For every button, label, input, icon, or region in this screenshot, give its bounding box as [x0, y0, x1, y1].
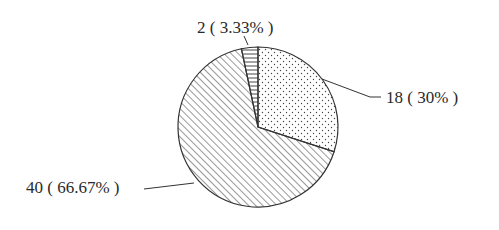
slice-label-medium: 18 ( 30% ): [386, 88, 458, 107]
leader-line-slice-2: [144, 183, 194, 189]
slice-label-small: 2 ( 3.33% ): [197, 18, 273, 37]
slice-label-large: 40 ( 66.67% ): [26, 178, 119, 197]
leader-line-slice-0: [244, 36, 248, 45]
pie-slices: [178, 47, 338, 207]
pie-chart: 2 ( 3.33% ) 18 ( 30% ) 40 ( 66.67% ): [0, 0, 499, 230]
